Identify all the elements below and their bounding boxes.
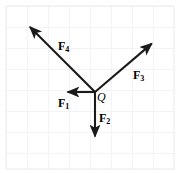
vector-label-f1-subscript: 1	[65, 102, 69, 111]
vector-label-f2: F2	[99, 112, 110, 124]
vector-label-f1: F1	[58, 97, 69, 109]
vector-label-f3-subscript: 3	[140, 74, 144, 83]
vector-label-f4: F4	[58, 40, 69, 52]
vector-label-f2-subscript: 2	[106, 117, 110, 126]
vector-label-f3: F3	[133, 69, 144, 81]
origin-point-label: Q	[97, 91, 106, 103]
force-vector-diagram: Q F1 F2 F3 F4	[0, 0, 181, 173]
vector-label-f4-subscript: 4	[65, 45, 69, 54]
vector-diagram-canvas	[0, 0, 181, 173]
